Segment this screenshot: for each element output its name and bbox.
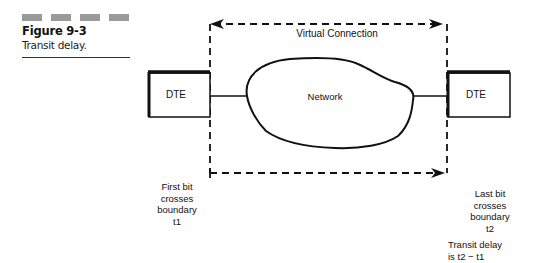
- left-dte-label: DTE: [166, 89, 186, 100]
- arrowhead-bottom-right-icon: [431, 168, 445, 178]
- left-annotation: First bit crosses boundary t1: [142, 181, 212, 227]
- virtual-connection-label: Virtual Connection: [282, 28, 392, 40]
- transit-delay-diagram: [0, 0, 533, 263]
- right-dte-label: DTE: [466, 89, 486, 100]
- right-annotation: Last bit crosses boundary t2: [455, 188, 525, 234]
- delay-annotation: Transit delay is t2 − t1: [448, 239, 533, 262]
- arrowhead-left-icon: [210, 19, 224, 29]
- network-label: Network: [290, 91, 360, 103]
- network-cloud: [247, 58, 414, 148]
